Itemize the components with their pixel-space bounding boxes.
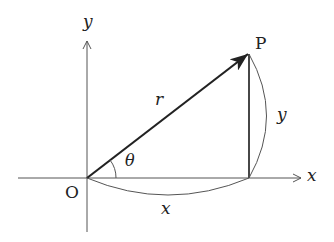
y-length-label: y (277, 106, 287, 123)
radius-label: r (155, 91, 163, 108)
polar-coordinate-diagram: y P r y θ O x x (0, 0, 334, 242)
x-length-label: x (161, 200, 171, 217)
point-p-label: P (255, 35, 266, 52)
x-length-brace (87, 178, 249, 195)
y-axis-label: y (83, 13, 93, 30)
y-length-brace (249, 54, 267, 178)
radius-vector (87, 54, 248, 178)
origin-label: O (65, 184, 79, 201)
angle-theta-label: θ (125, 153, 135, 169)
x-axis-label: x (307, 167, 317, 184)
angle-arc (110, 160, 116, 178)
